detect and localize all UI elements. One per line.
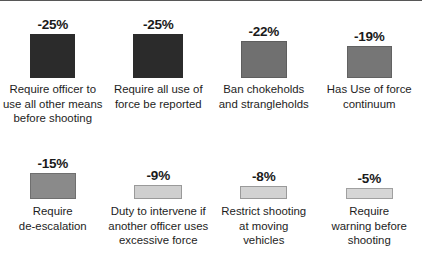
bar-value-label: -8%: [252, 170, 275, 184]
bar-value-label: -9%: [147, 169, 170, 183]
bar-grid: -25% Require officer to use all other me…: [0, 1, 422, 268]
caption-line: continuum: [319, 97, 419, 112]
bar-ban-chokeholds[interactable]: [241, 41, 287, 78]
bar-stack: -25%: [106, 1, 212, 78]
bar-chart: -25% Require officer to use all other me…: [0, 0, 422, 268]
chart-item-ban-chokeholds[interactable]: -22% Ban chokeholds and strangleholds: [211, 1, 317, 135]
caption-line: at moving: [214, 219, 314, 234]
chart-item-require-de-escalation[interactable]: -15% Require de-escalation: [0, 135, 106, 268]
bar-caption: Require warning before shooting: [319, 204, 419, 248]
bar-area: [317, 46, 422, 78]
bar-caption: Ban chokeholds and strangleholds: [214, 82, 314, 111]
bar-value-label: -19%: [354, 30, 385, 44]
bar-value-label: -5%: [358, 172, 381, 186]
bar-value-label: -25%: [37, 18, 68, 32]
bar-caption: Require de-escalation: [3, 204, 103, 233]
caption-line: shooting: [319, 233, 419, 248]
bar-require-warning-before-shooting[interactable]: [346, 188, 393, 199]
bar-stack: -19%: [317, 1, 422, 78]
caption-line: use all other means: [3, 97, 103, 112]
bar-stack: -22%: [211, 1, 317, 78]
caption-line: Has Use of force: [319, 82, 419, 97]
caption-line: Require: [3, 204, 103, 219]
bar-value-label: -15%: [37, 157, 68, 171]
bar-stack: -15%: [0, 135, 106, 199]
chart-item-require-warning-before-shooting[interactable]: -5% Require warning before shooting: [317, 135, 422, 268]
bar-require-all-force-reported[interactable]: [133, 34, 183, 78]
caption-line: warning before: [319, 219, 419, 234]
caption-line: excessive force: [108, 233, 208, 248]
bar-require-officer-other-means[interactable]: [30, 34, 75, 78]
bar-caption: Require all use of force be reported: [108, 82, 208, 111]
caption-line: Require: [319, 204, 419, 219]
bar-value-label: -22%: [248, 25, 279, 39]
bar-stack: -8%: [211, 135, 317, 199]
bar-area: [211, 41, 317, 78]
chart-item-require-officer-other-means[interactable]: -25% Require officer to use all other me…: [0, 1, 106, 135]
caption-line: Require officer to: [3, 82, 103, 97]
bar-area: [211, 186, 317, 199]
bar-area: [317, 188, 422, 199]
caption-line: and strangleholds: [214, 97, 314, 112]
bar-use-of-force-continuum[interactable]: [347, 46, 392, 78]
caption-line: vehicles: [214, 233, 314, 248]
caption-line: de-escalation: [3, 219, 103, 234]
bar-require-de-escalation[interactable]: [30, 173, 76, 199]
chart-item-require-all-force-reported[interactable]: -25% Require all use of force be reporte…: [106, 1, 212, 135]
bar-stack: -25%: [0, 1, 106, 78]
bar-caption: Require officer to use all other means b…: [3, 82, 103, 126]
bar-area: [0, 173, 106, 199]
bar-area: [106, 185, 212, 199]
bar-area: [106, 34, 212, 78]
caption-line: another officer uses: [108, 219, 208, 234]
bar-stack: -9%: [106, 135, 212, 199]
caption-line: before shooting: [3, 111, 103, 126]
chart-item-restrict-shooting-moving-vehicles[interactable]: -8% Restrict shooting at moving vehicles: [211, 135, 317, 268]
chart-item-duty-to-intervene[interactable]: -9% Duty to intervene if another officer…: [106, 135, 212, 268]
bar-caption: Has Use of force continuum: [319, 82, 419, 111]
caption-line: Require all use of: [108, 82, 208, 97]
caption-line: Ban chokeholds: [214, 82, 314, 97]
bar-stack: -5%: [317, 135, 422, 199]
caption-line: Duty to intervene if: [108, 204, 208, 219]
caption-line: Restrict shooting: [214, 204, 314, 219]
bar-duty-to-intervene[interactable]: [134, 185, 182, 199]
bar-caption: Duty to intervene if another officer use…: [108, 204, 208, 248]
caption-line: force be reported: [108, 97, 208, 112]
bar-restrict-shooting-moving-vehicles[interactable]: [240, 186, 287, 199]
bar-value-label: -25%: [143, 18, 174, 32]
bar-area: [0, 34, 106, 78]
bar-caption: Restrict shooting at moving vehicles: [214, 204, 314, 248]
chart-item-use-of-force-continuum[interactable]: -19% Has Use of force continuum: [317, 1, 422, 135]
